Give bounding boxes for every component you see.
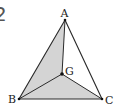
point-c	[101, 98, 104, 101]
triangle-diagram: 2 A B C G	[0, 0, 122, 112]
label-g: G	[65, 65, 74, 78]
problem-number: 2	[0, 2, 7, 26]
label-c: C	[105, 94, 113, 107]
label-a: A	[60, 7, 70, 20]
point-b	[18, 98, 21, 101]
label-b: B	[8, 93, 16, 106]
point-g	[60, 72, 64, 76]
